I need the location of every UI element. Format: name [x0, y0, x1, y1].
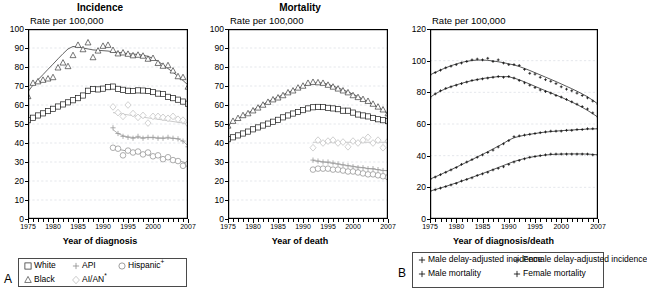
legend-item-male-mortality: Male mortality — [416, 269, 509, 282]
x-tick-mark — [313, 219, 314, 222]
x-tick-label: 1995 — [527, 223, 543, 230]
x-tick-mark — [113, 219, 114, 222]
xtitle-incidence: Year of diagnosis — [0, 236, 200, 246]
x-tick-label: 1985 — [70, 223, 86, 230]
x-tick-mark — [318, 219, 319, 222]
x-tick-mark — [283, 219, 284, 222]
x-tick-mark — [293, 219, 294, 222]
x-tick-mark — [53, 219, 54, 223]
y-tick-mark — [225, 162, 228, 163]
x-tick-label: 1975 — [20, 223, 36, 230]
y-tick-mark — [225, 86, 228, 87]
x-tick-mark — [338, 219, 339, 222]
x-tick-mark — [498, 219, 499, 222]
x-tick-mark — [243, 219, 244, 222]
y-tick-mark — [25, 67, 28, 68]
x-tick-label: 2000 — [553, 223, 569, 230]
x-tick-mark — [183, 219, 184, 222]
y-tick-label: 80 — [200, 62, 224, 72]
x-tick-label: 2000 — [145, 223, 161, 230]
x-tick-label: 2007 — [380, 223, 396, 230]
x-tick-mark — [535, 219, 536, 223]
panel-mortality: Mortality Rate per 100,000 0102030405060… — [200, 0, 400, 293]
y-tick-label: 50 — [200, 119, 224, 129]
y-tick-label: 40 — [400, 151, 426, 161]
x-tick-mark — [153, 219, 154, 223]
x-tick-mark — [258, 219, 259, 222]
x-tick-mark — [78, 219, 79, 223]
y-tick-label: 40 — [0, 138, 24, 148]
y-tick-mark — [25, 162, 28, 163]
x-tick-mark — [163, 219, 164, 222]
x-tick-mark — [593, 219, 594, 222]
x-tick-label: 2007 — [180, 223, 196, 230]
x-tick-mark — [328, 219, 329, 223]
x-tick-mark — [353, 219, 354, 223]
y-tick-label: 20 — [400, 182, 426, 192]
x-tick-mark — [118, 219, 119, 222]
x-tick-mark — [582, 219, 583, 222]
x-tick-mark — [58, 219, 59, 222]
x-tick-mark — [273, 219, 274, 222]
x-tick-mark — [383, 219, 384, 222]
x-tick-mark — [148, 219, 149, 222]
x-tick-mark — [462, 219, 463, 222]
plus-marker — [70, 261, 81, 274]
x-tick-mark — [33, 219, 34, 222]
legend-item-black: Black — [22, 275, 68, 288]
x-tick-mark — [363, 219, 364, 222]
legend-item-label: Hispanic+ — [128, 261, 164, 271]
y-tick-label: 50 — [0, 119, 24, 129]
circle-marker — [116, 261, 127, 274]
x-tick-label: 1975 — [422, 223, 438, 230]
x-tick-mark — [451, 219, 452, 222]
x-tick-mark — [509, 219, 510, 223]
y-tick-label: 20 — [0, 176, 24, 186]
x-tick-mark — [238, 219, 239, 222]
x-tick-label: 2007 — [590, 223, 606, 230]
x-tick-mark — [158, 219, 159, 222]
y-tick-mark — [225, 124, 228, 125]
y-tick-label: 20 — [200, 176, 224, 186]
y-tick-mark — [225, 143, 228, 144]
y-tick-label: 40 — [200, 138, 224, 148]
xtitle-by-sex: Year of diagnosis/death — [400, 236, 607, 246]
x-tick-mark — [446, 219, 447, 222]
x-tick-mark — [93, 219, 94, 222]
y-tick-mark — [427, 61, 430, 62]
x-tick-mark — [88, 219, 89, 222]
x-tick-label: 1980 — [245, 223, 261, 230]
x-tick-mark — [253, 219, 254, 223]
y-tick-label: 100 — [200, 24, 224, 34]
x-tick-mark — [38, 219, 39, 222]
x-tick-mark — [268, 219, 269, 222]
x-tick-label: 1980 — [448, 223, 464, 230]
x-tick-mark — [467, 219, 468, 222]
panel-incidence: Incidence Rate per 100,000 0102030405060… — [0, 0, 200, 293]
x-tick-label: 1985 — [475, 223, 491, 230]
y-tick-mark — [225, 105, 228, 106]
y-tick-label: 60 — [200, 100, 224, 110]
y-tick-mark — [25, 105, 28, 106]
x-tick-mark — [472, 219, 473, 222]
x-tick-mark — [343, 219, 344, 222]
x-tick-mark — [348, 219, 349, 222]
y-tick-mark — [427, 156, 430, 157]
x-tick-mark — [519, 219, 520, 222]
plus-marker — [416, 255, 427, 268]
x-tick-mark — [525, 219, 526, 222]
y-tick-label: 80 — [400, 87, 426, 97]
legend-panel-a: WhiteAPIHispanic+BlackAI/AN* — [18, 258, 187, 287]
x-tick-mark — [551, 219, 552, 222]
x-tick-mark — [263, 219, 264, 222]
y-tick-label: 120 — [400, 24, 426, 34]
x-tick-mark — [530, 219, 531, 222]
x-tick-mark — [133, 219, 134, 222]
x-tick-mark — [233, 219, 234, 222]
y-tick-mark — [25, 181, 28, 182]
legend-item-label: Male mortality — [428, 269, 481, 279]
x-tick-mark — [388, 219, 389, 223]
y-tick-mark — [427, 124, 430, 125]
y-tick-mark — [225, 200, 228, 201]
